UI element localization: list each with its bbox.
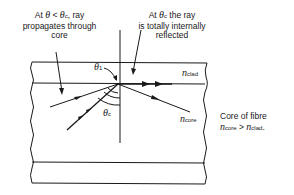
arrowhead <box>151 95 160 100</box>
left-break-edge <box>31 62 34 183</box>
arrowhead <box>78 115 84 120</box>
left-leader-line <box>56 52 62 92</box>
right-break-edge <box>204 63 208 184</box>
arrowhead <box>74 96 82 100</box>
arrowhead <box>86 108 92 113</box>
n-core-label: ncore <box>180 114 197 126</box>
arrowhead <box>59 88 64 95</box>
left-annotation: At θ < θc, ray propagates through core <box>12 10 107 41</box>
n-clad-label: nclad <box>182 68 198 80</box>
core-cladding-interface-bottom <box>32 162 205 163</box>
theta-c-label: θc <box>103 108 111 120</box>
cladding-bottom-boundary <box>32 183 205 184</box>
right-annotation: At θc the ray is totally internally refl… <box>122 10 222 41</box>
arrowhead <box>131 68 136 75</box>
arrowhead <box>142 81 150 87</box>
theta-1-label: θ1 <box>94 62 102 74</box>
core-of-fibre-note: Core of fibre ncore > nclad. <box>220 112 267 133</box>
arrowhead <box>155 81 163 87</box>
